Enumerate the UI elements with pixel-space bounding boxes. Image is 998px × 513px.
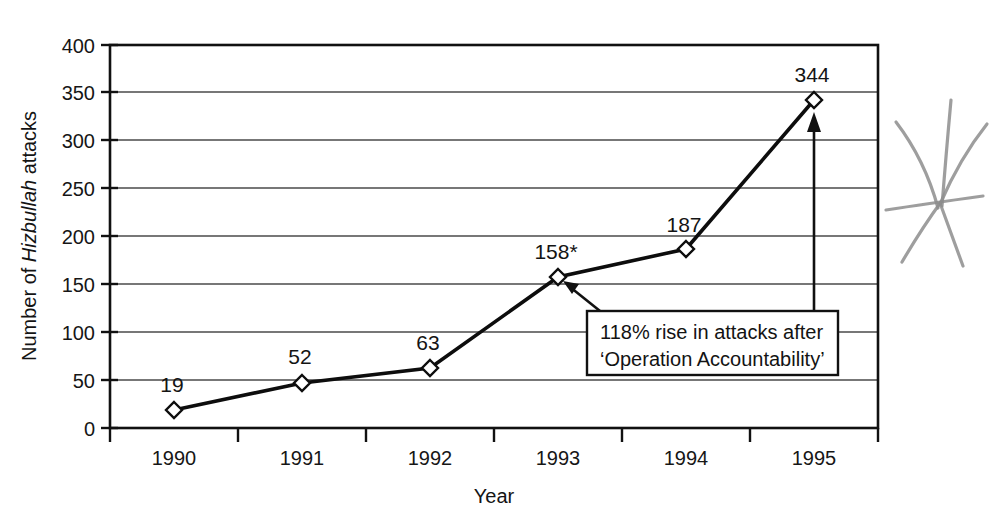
data-point-1991[interactable] — [294, 375, 310, 391]
y-tick-label-0: 0 — [84, 418, 95, 440]
y-axis-tick-labels: 400 350 300 250 200 150 100 50 0 — [62, 35, 95, 440]
y-tick-label-150: 150 — [62, 274, 95, 296]
y-axis-title: Number of Hizbullah attacks — [18, 111, 40, 361]
x-tick-label-1995: 1995 — [792, 447, 837, 469]
y-axis-title-prefix: Number of — [18, 262, 40, 361]
data-label-1993: 158* — [534, 240, 577, 263]
annotation-line-2: ‘Operation Accountability’ — [600, 348, 825, 370]
chart-figure: 400 350 300 250 200 150 100 50 0 Number … — [0, 0, 998, 513]
line-chart: 400 350 300 250 200 150 100 50 0 Number … — [0, 0, 998, 513]
y-axis-title-suffix: attacks — [18, 111, 40, 180]
y-tick-label-250: 250 — [62, 178, 95, 200]
annotation-leader-1993 — [563, 281, 600, 311]
x-tick-label-1991: 1991 — [280, 447, 325, 469]
y-tick-label-50: 50 — [73, 370, 95, 392]
data-label-1992: 63 — [416, 331, 439, 354]
y-tick-label-100: 100 — [62, 322, 95, 344]
x-axis-title: Year — [474, 485, 515, 507]
annotation-line-1: 118% rise in attacks after — [600, 321, 823, 343]
data-label-1991: 52 — [288, 345, 311, 368]
annotation-leader-line-1993 — [570, 287, 600, 311]
data-point-1990[interactable] — [166, 402, 182, 418]
y-tick-label-200: 200 — [62, 226, 95, 248]
asterisk-scan-mark-icon — [886, 100, 987, 266]
annotation-callout[interactable]: 118% rise in attacks after ‘Operation Ac… — [587, 311, 838, 375]
y-tick-label-350: 350 — [62, 82, 95, 104]
x-tick-label-1994: 1994 — [664, 447, 709, 469]
annotation-arrowhead-1995 — [807, 112, 821, 132]
x-tick-label-1990: 1990 — [152, 447, 197, 469]
x-tickmarks — [110, 428, 878, 442]
y-axis-title-italic: Hizbullah — [18, 180, 40, 262]
x-axis-tick-labels: 1990 1991 1992 1993 1994 1995 — [152, 447, 837, 469]
annotation-leader-1995 — [807, 112, 821, 311]
data-label-1995: 344 — [794, 63, 829, 86]
x-tick-label-1992: 1992 — [408, 447, 453, 469]
y-tick-label-400: 400 — [62, 35, 95, 57]
svg-text:Number of Hizbullah attacks: Number of Hizbullah attacks — [18, 111, 40, 361]
data-label-1994: 187 — [666, 213, 701, 236]
data-label-1990: 19 — [160, 373, 183, 396]
y-tick-label-300: 300 — [62, 130, 95, 152]
x-tick-label-1993: 1993 — [536, 447, 581, 469]
